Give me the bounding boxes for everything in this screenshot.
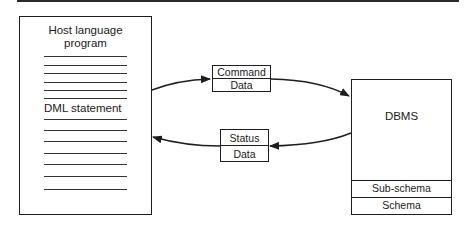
arrow-command-to-dbms xyxy=(271,79,349,96)
arrow-program-to-command xyxy=(152,79,210,90)
arrow-status-to-program xyxy=(153,137,220,146)
arrow-dbms-to-status xyxy=(270,133,351,146)
flow-arrows xyxy=(0,0,471,231)
